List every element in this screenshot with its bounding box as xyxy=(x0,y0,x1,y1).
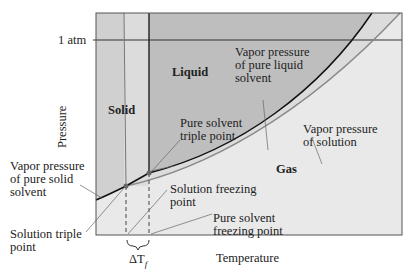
vp-pure-solid-line3: solvent xyxy=(10,186,85,199)
delta-tf-subscript: f xyxy=(145,259,148,269)
delta-tf-symbol: ΔT xyxy=(129,252,145,266)
vp-pure-solid-label: Vapor pressure of pure solid solvent xyxy=(10,160,85,199)
solution-triple-point-marker xyxy=(124,184,129,189)
pure-triple-line2: triple point xyxy=(180,130,242,143)
solution-freezing-line2: point xyxy=(170,196,256,209)
solution-freezing-label: Solution freezing point xyxy=(170,183,256,209)
pure-triple-label: Pure solvent triple point xyxy=(180,117,242,143)
x-axis-label: Temperature xyxy=(216,252,279,265)
region-liquid-label: Liquid xyxy=(172,66,208,79)
delta-tf-brace xyxy=(127,240,149,250)
vp-solution-line2: of solution xyxy=(303,136,378,149)
region-solid-label: Solid xyxy=(108,104,135,117)
solution-triple-line2: point xyxy=(10,241,82,254)
vp-solution-label: Vapor pressure of solution xyxy=(303,123,378,149)
vp-pure-liquid-line3: solvent xyxy=(235,72,310,85)
pure-freezing-line2: freezing point xyxy=(213,225,283,238)
vp-pure-liquid-label: Vapor pressure of pure liquid solvent xyxy=(235,46,310,85)
y-axis-label: Pressure xyxy=(56,106,69,148)
y-tick-1atm: 1 atm xyxy=(58,34,86,47)
solution-triple-label: Solution triple point xyxy=(10,228,82,254)
region-gas-label: Gas xyxy=(276,163,297,176)
pure-freezing-label: Pure solvent freezing point xyxy=(213,212,283,238)
delta-tf-label: ΔTf xyxy=(129,253,147,271)
solid-band-strip xyxy=(124,13,149,186)
pure-triple-point-marker xyxy=(147,171,152,176)
